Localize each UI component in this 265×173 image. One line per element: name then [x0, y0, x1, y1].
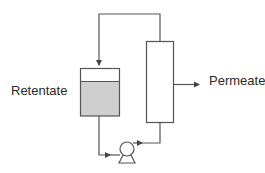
pump-body — [120, 142, 134, 156]
pump-icon — [119, 142, 135, 163]
tank-liquid — [81, 82, 120, 117]
tank-to-pump-line — [99, 116, 120, 155]
permeate-label: Permeate — [209, 74, 265, 87]
retentate-label: Retentate — [11, 84, 67, 97]
retentate-tank — [81, 69, 120, 117]
pump-to-membrane-line — [133, 122, 160, 143]
membrane-module — [147, 42, 174, 123]
